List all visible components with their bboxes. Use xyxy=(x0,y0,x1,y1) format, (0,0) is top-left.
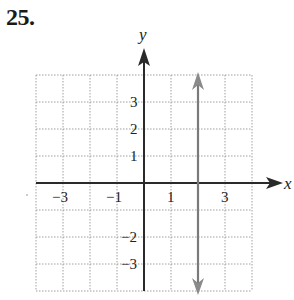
x-tick-label: 1 xyxy=(167,189,175,205)
x-tick-label: −1 xyxy=(106,189,122,205)
stray-dot xyxy=(26,194,28,196)
y-tick-label: 3 xyxy=(130,94,138,110)
y-axis xyxy=(138,48,150,291)
x-axis-label: x xyxy=(283,174,292,193)
y-axis-label: y xyxy=(137,25,147,44)
x-tick-label: 3 xyxy=(221,189,229,205)
y-tick-label: 1 xyxy=(130,148,138,164)
y-tick-label: −3 xyxy=(121,256,137,272)
coordinate-graph: x y −3 −1 1 3 3 2 1 −2 −3 xyxy=(0,0,294,300)
x-tick-label: −3 xyxy=(52,189,68,205)
x-axis xyxy=(36,177,283,189)
y-tick-label: −2 xyxy=(121,229,137,245)
y-tick-label: 2 xyxy=(130,121,138,137)
